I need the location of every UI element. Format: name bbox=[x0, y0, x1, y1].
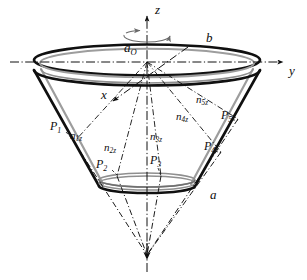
point-label-P4-sub: 4 bbox=[211, 146, 215, 155]
normal-line-n3z bbox=[147, 176, 161, 255]
point-label-P3: P3 bbox=[150, 154, 161, 166]
axis-label-z: z bbox=[155, 3, 160, 16]
normal-label-n1z-base: n bbox=[70, 129, 76, 141]
normal-label-n4z-sub: 4z bbox=[182, 116, 188, 124]
axis-label-y: y bbox=[289, 64, 295, 77]
conical-shell-figure: z y x aO b a P1 P2 P3 P4 P5 n1z n2z n3z … bbox=[0, 0, 307, 280]
normal-label-n1z: n1z bbox=[70, 130, 82, 141]
point-label-P1: P1 bbox=[50, 120, 61, 132]
normal-label-n2z: n2z bbox=[104, 142, 116, 153]
axis-label-x: x bbox=[101, 88, 107, 101]
rotation-label-sub: O bbox=[131, 47, 137, 57]
point-label-P3-sub: 3 bbox=[157, 160, 161, 169]
point-label-P4: P4 bbox=[204, 140, 215, 152]
radial-to-P2 bbox=[117, 62, 147, 176]
dimension-label-b: b bbox=[206, 31, 213, 44]
rotation-label-base: a bbox=[124, 40, 131, 55]
normal-label-n5z: n5z bbox=[196, 94, 208, 105]
normal-label-n2z-base: n bbox=[104, 141, 110, 153]
normal-label-n4z-base: n bbox=[176, 110, 182, 122]
dimension-label-a: a bbox=[210, 188, 217, 201]
point-label-P1-sub: 1 bbox=[57, 126, 61, 135]
rotation-label-a0: aO bbox=[124, 41, 137, 54]
point-label-P2-sub: 2 bbox=[103, 164, 107, 173]
point-label-P5-sub: 5 bbox=[228, 115, 232, 124]
normal-label-n5z-base: n bbox=[196, 93, 202, 105]
normal-label-n3z-sub: 3z bbox=[156, 136, 162, 144]
normal-label-n3z: n3z bbox=[150, 131, 162, 142]
normal-label-n5z-sub: 5z bbox=[202, 99, 208, 107]
point-label-P5: P5 bbox=[221, 109, 232, 121]
normal-label-n2z-sub: 2z bbox=[110, 147, 116, 155]
point-label-P2: P2 bbox=[96, 158, 107, 170]
normal-label-n3z-base: n bbox=[150, 130, 156, 142]
normal-label-n1z-sub: 1z bbox=[76, 135, 82, 143]
normal-label-n4z: n4z bbox=[176, 111, 188, 122]
